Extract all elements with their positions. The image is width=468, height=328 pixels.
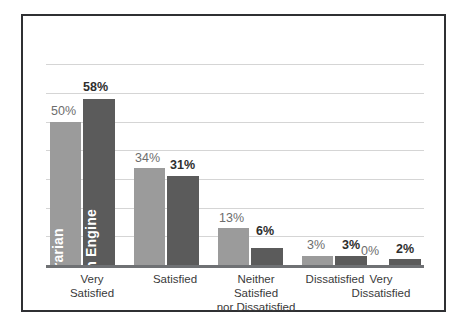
bar-group-satisfied: 34% 31%	[134, 52, 202, 265]
bar-librarian-neither[interactable]	[218, 228, 249, 265]
category-line-3: nor Dissatisfied	[183, 300, 329, 314]
value-label-librarian-satisfied: 34%	[135, 151, 160, 165]
value-label-librarian-very-dissatisfied: 0%	[361, 244, 379, 258]
category-line-2: Satisfied	[183, 286, 329, 300]
value-label-search-engine-satisfied: 31%	[170, 158, 195, 172]
value-label-librarian-very-satisfied: 50%	[51, 104, 76, 118]
value-label-librarian-dissatisfied: 3%	[307, 238, 325, 252]
bar-group-very-satisfied: Librarian Search Engine 50% 58%	[50, 52, 118, 265]
bar-search-engine-neither[interactable]	[251, 248, 283, 265]
bar-search-engine-satisfied[interactable]	[167, 176, 199, 265]
value-label-search-engine-neither: 6%	[256, 224, 274, 238]
bar-librarian-satisfied[interactable]	[134, 168, 165, 265]
chart-frame: Librarian Search Engine 50% 58% 34% 31% …	[21, 14, 446, 312]
x-axis-line	[46, 265, 424, 268]
value-label-librarian-neither: 13%	[219, 211, 244, 225]
value-label-search-engine-very-satisfied: 58%	[83, 80, 108, 94]
category-line-2: Dissatisfied	[317, 286, 445, 300]
plot-area: Librarian Search Engine 50% 58% 34% 31% …	[46, 52, 424, 265]
category-label-very-dissatisfied: Very Dissatisfied	[317, 272, 445, 300]
bar-librarian-dissatisfied[interactable]	[302, 256, 333, 265]
category-line-2: Satisfied	[28, 286, 156, 300]
bar-group-very-dissatisfied: 0% 2%	[356, 52, 424, 265]
bar-librarian-very-satisfied[interactable]: Librarian	[50, 122, 81, 265]
bar-search-engine-very-satisfied[interactable]: Search Engine	[83, 99, 115, 265]
value-label-search-engine-very-dissatisfied: 2%	[396, 242, 414, 256]
category-line-1: Very	[317, 272, 445, 286]
bar-group-neither: 13% 6%	[218, 52, 286, 265]
